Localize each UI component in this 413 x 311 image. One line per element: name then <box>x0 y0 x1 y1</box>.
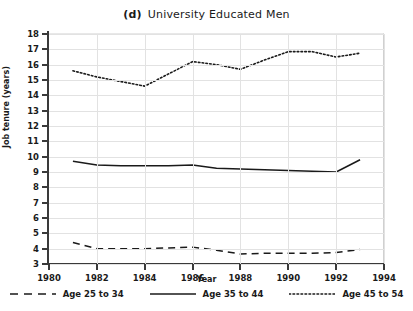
x-axis-tick-label: 1988 <box>229 273 253 283</box>
y-axis-tick-label: 9 <box>33 167 39 177</box>
y-axis-tick-label: 10 <box>27 152 39 162</box>
x-axis-tick-label: 1980 <box>37 273 61 283</box>
x-axis-label: Year <box>0 275 413 284</box>
gridline-vertical <box>97 34 98 264</box>
x-axis-tick <box>144 264 146 270</box>
y-axis-tick-label: 17 <box>27 44 39 54</box>
y-axis-tick <box>42 248 49 250</box>
legend-label: Age 45 to 54 <box>342 289 403 299</box>
series-line-age-35-to-44 <box>73 160 360 172</box>
y-axis-tick-label: 6 <box>33 213 39 223</box>
y-axis-tick-label: 5 <box>33 228 39 238</box>
legend-label: Age 25 to 34 <box>63 289 124 299</box>
legend-swatch-solid <box>150 289 196 299</box>
gridline-vertical <box>193 34 194 264</box>
x-axis-tick-label: 1986 <box>181 273 205 283</box>
x-axis-tick <box>383 264 385 270</box>
gridline-horizontal <box>49 203 384 204</box>
y-axis-tick-label: 18 <box>27 29 39 39</box>
y-axis-tick-label: 3 <box>33 259 39 269</box>
gridline-horizontal <box>49 249 384 250</box>
x-axis-tick <box>287 264 289 270</box>
legend-swatch-dashed <box>10 289 56 299</box>
gridline-horizontal <box>49 34 384 35</box>
y-axis-tick <box>42 110 49 112</box>
legend-item-age-45-to-54[interactable]: Age 45 to 54 <box>289 289 403 299</box>
gridline-horizontal <box>49 218 384 219</box>
y-axis-tick <box>42 217 49 219</box>
y-axis-tick-label: 16 <box>27 60 39 70</box>
legend-item-age-25-to-34[interactable]: Age 25 to 34 <box>10 289 124 299</box>
legend-label: Age 35 to 44 <box>203 289 264 299</box>
x-axis-tick <box>239 264 241 270</box>
y-axis-tick-label: 15 <box>27 75 39 85</box>
x-axis-tick-label: 1994 <box>372 273 396 283</box>
gridline-vertical <box>145 34 146 264</box>
chart-title-text: University Educated Men <box>148 8 290 21</box>
y-axis-tick <box>42 156 49 158</box>
gridline-horizontal <box>49 65 384 66</box>
gridline-vertical <box>384 34 385 264</box>
y-axis-tick-label: 8 <box>33 182 39 192</box>
chart-legend: Age 25 to 34Age 35 to 44Age 45 to 54 <box>0 289 413 299</box>
x-axis-tick-label: 1984 <box>133 273 157 283</box>
gridline-horizontal <box>49 95 384 96</box>
chart-figure: (d)University Educated Men Job tenure (y… <box>0 0 413 311</box>
x-axis-tick <box>335 264 337 270</box>
x-axis-tick <box>96 264 98 270</box>
gridline-vertical <box>336 34 337 264</box>
data-series-layer <box>49 34 384 264</box>
gridline-horizontal <box>49 157 384 158</box>
legend-item-age-35-to-44[interactable]: Age 35 to 44 <box>150 289 264 299</box>
x-axis-tick <box>48 264 50 270</box>
y-axis-tick <box>42 202 49 204</box>
y-axis-tick-label: 12 <box>27 121 39 131</box>
y-axis-tick-label: 14 <box>27 90 39 100</box>
y-axis-tick <box>42 140 49 142</box>
legend-swatch-dotted <box>289 289 335 299</box>
x-axis-tick-label: 1982 <box>85 273 109 283</box>
chart-title: (d)University Educated Men <box>0 8 413 21</box>
x-axis-tick-label: 1990 <box>276 273 300 283</box>
y-axis-tick <box>42 171 49 173</box>
gridline-horizontal <box>49 80 384 81</box>
y-axis-tick <box>42 232 49 234</box>
y-axis-tick <box>42 64 49 66</box>
x-axis-tick <box>192 264 194 270</box>
y-axis-tick <box>42 48 49 50</box>
y-axis-tick <box>42 33 49 35</box>
gridline-horizontal <box>49 49 384 50</box>
gridline-horizontal <box>49 141 384 142</box>
y-axis-tick-label: 11 <box>27 136 39 146</box>
gridline-horizontal <box>49 233 384 234</box>
gridline-horizontal <box>49 111 384 112</box>
gridline-vertical <box>288 34 289 264</box>
gridline-horizontal <box>49 172 384 173</box>
panel-letter: (d) <box>123 8 142 21</box>
y-axis-tick <box>42 125 49 127</box>
y-axis-tick <box>42 79 49 81</box>
y-axis-tick <box>42 94 49 96</box>
y-axis-tick <box>42 186 49 188</box>
gridline-vertical <box>240 34 241 264</box>
y-axis-tick-label: 4 <box>33 244 39 254</box>
x-axis-tick-label: 1992 <box>324 273 348 283</box>
y-axis-tick-label: 7 <box>33 198 39 208</box>
gridline-horizontal <box>49 264 384 265</box>
plot-area: 3456789101112131415161718198019821984198… <box>49 33 384 263</box>
gridline-horizontal <box>49 126 384 127</box>
y-axis-tick-label: 13 <box>27 106 39 116</box>
gridline-horizontal <box>49 187 384 188</box>
y-axis-label: Job tenure (years) <box>2 66 11 148</box>
